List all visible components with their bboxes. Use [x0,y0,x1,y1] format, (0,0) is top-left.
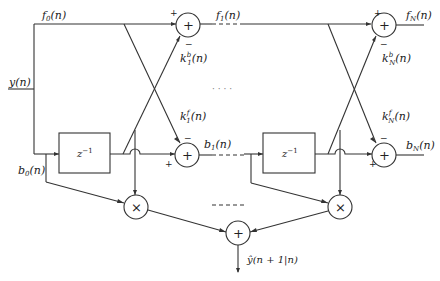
arrow-icon [176,36,180,42]
arrow-icon [54,152,59,156]
kNb-label: kbN(n) [382,51,411,67]
fN-label: fN(n) [405,9,432,23]
arrow-icon [250,228,257,232]
arrow-icon [170,152,175,156]
multN-to-sum-line [250,211,328,232]
diag-kb-N [328,36,376,154]
plus-sign: + [165,159,173,169]
minus-sign: − [380,39,388,49]
minus-sign: − [184,133,192,143]
arrow-icon [367,152,372,156]
input-label: y(n) [8,76,31,89]
arrow-icon [236,268,240,273]
arrow-icon [258,152,263,156]
plus-sign: + [170,8,178,18]
k1b-label: kb1(n) [180,51,207,67]
arrow-icon [372,36,376,42]
ellipsis: · · · · [212,84,232,94]
delayed-backward-line-1 [110,149,175,154]
kNf-label: kfN(n) [382,109,410,125]
b0-to-mult-line [46,182,124,203]
plus-sign: + [374,8,382,18]
arrow-icon [133,190,137,195]
adder-symbol: + [233,226,244,241]
arrow-icon [219,228,226,232]
f0-label: f0(n) [41,9,66,23]
delayed-backward-line-N [315,149,372,154]
arrow-icon [321,199,328,203]
adder-symbol: + [379,18,390,33]
plus-sign: + [369,159,377,169]
arrow-icon [117,199,124,203]
multiplier-symbol: × [131,200,142,215]
lattice-diagram: y(n) f0(n) + + − z−1 b0(n) kb1(n) kf1(n)… [0,0,440,281]
mult1-to-sum-line [148,210,226,232]
arrow-icon [338,190,342,195]
f1-label: f1(n) [215,9,240,23]
diag-kf-1 [124,24,180,143]
arrow-icon [366,22,371,26]
arrow-icon [171,22,176,26]
k1f-label: kf1(n) [180,109,206,125]
multiplier-symbol: × [335,200,346,215]
adder-symbol: + [182,148,193,163]
adder-symbol: + [183,18,194,33]
minus-sign: − [380,133,388,143]
minus-sign: − [185,39,193,49]
diag-kf-N [328,24,376,143]
b1-label: b1(n) [204,138,231,152]
b0-label: b0(n) [18,164,45,178]
diag-kb-1 [123,36,180,154]
bN-label: bN(n) [406,139,435,153]
output-label: ŷ(n + 1|n) [246,254,298,266]
bN-to-mult-line [251,183,328,203]
adder-symbol: + [379,148,390,163]
